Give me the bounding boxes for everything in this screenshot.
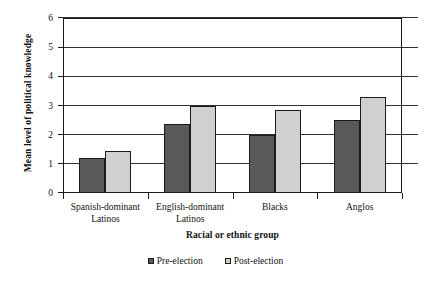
legend-swatch-icon [225, 258, 231, 264]
y-tick-label: 6 [41, 13, 53, 23]
plot-right-border [401, 18, 402, 193]
y-tick-label: 4 [41, 71, 53, 81]
legend-label: Pre-election [157, 256, 203, 266]
x-category-line: Anglos [305, 201, 415, 213]
y-tick-label: 3 [41, 101, 53, 111]
plot-top-border [63, 18, 402, 19]
bar [249, 135, 275, 193]
x-tick-mark [148, 193, 149, 199]
y-axis-title: Mean level of political knowledge [23, 13, 33, 193]
bar-chart-figure: Mean level of political knowledge 012345… [0, 0, 431, 283]
x-category-label: Anglos [305, 201, 415, 213]
x-axis-title: Racial or ethnic group [63, 230, 402, 240]
legend-item: Post-election [225, 256, 284, 266]
y-tick-label: 2 [41, 130, 53, 140]
legend-item: Pre-election [148, 256, 203, 266]
bar [105, 151, 131, 193]
bar [360, 97, 386, 193]
x-tick-mark [317, 193, 318, 199]
bar [79, 158, 105, 193]
chart-legend: Pre-electionPost-election [0, 256, 431, 266]
legend-swatch-icon [148, 258, 154, 264]
bar [275, 110, 301, 193]
bar [164, 124, 190, 193]
x-tick-mark [63, 193, 64, 199]
x-category-line: Latinos [135, 213, 245, 225]
bar [190, 106, 216, 194]
bar [334, 120, 360, 193]
y-tick-label: 0 [41, 188, 53, 198]
y-tick-label: 1 [41, 159, 53, 169]
x-tick-mark [233, 193, 234, 199]
x-tick-mark [402, 193, 403, 199]
legend-label: Post-election [234, 256, 284, 266]
y-tick-label: 5 [41, 42, 53, 52]
